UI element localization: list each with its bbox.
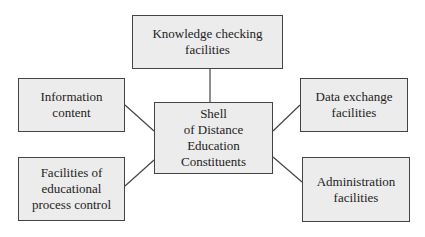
node-label: Administration facilities [317,174,396,206]
node-label: Information content [40,89,102,121]
node-label: Knowledge checking facilities [152,26,262,58]
node-administration: Administration facilities [302,157,410,222]
node-label: Facilities of educational process contro… [32,165,111,213]
node-label: Data exchange facilities [316,89,393,121]
node-knowledge-checking: Knowledge checking facilities [132,15,283,69]
node-data-exchange: Data exchange facilities [300,78,408,132]
node-information-content: Information content [18,78,125,132]
center-label: Shell of Distance Education Constituents [181,106,246,170]
center-node-shell: Shell of Distance Education Constituents [154,102,273,174]
node-process-control: Facilities of educational process contro… [18,157,125,221]
